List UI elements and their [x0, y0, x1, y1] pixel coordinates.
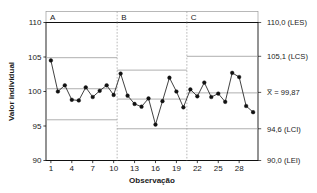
right-limit-label-lci: 94,6 (LCI)	[267, 125, 301, 134]
data-point	[230, 71, 234, 75]
data-point	[105, 83, 109, 87]
data-point	[133, 102, 137, 106]
x-tick-label: 13	[130, 164, 139, 173]
x-tick-label: 22	[193, 164, 202, 173]
x-tick-label: 25	[214, 164, 223, 173]
right-limit-label-lei: 90,0 (LEI)	[267, 156, 301, 165]
stage-label-b: B	[121, 13, 126, 22]
data-point	[216, 92, 220, 96]
y-tick-label: 90	[32, 156, 41, 165]
data-point	[56, 90, 60, 94]
y-tick-label: 110	[29, 18, 42, 27]
x-tick-label: 10	[109, 164, 118, 173]
data-point	[195, 94, 199, 98]
control-chart: ABC 9095100105110 Valor individual 14710…	[0, 0, 317, 193]
data-point	[77, 99, 81, 103]
x-tick-label: 1	[49, 164, 54, 173]
data-point	[223, 100, 227, 104]
x-tick-label: 28	[235, 164, 244, 173]
data-point	[237, 75, 241, 79]
data-point	[126, 94, 130, 98]
x-axis-title: Observação	[129, 176, 175, 185]
data-point	[161, 99, 165, 103]
data-point	[119, 72, 123, 76]
data-point	[98, 89, 102, 93]
data-point	[251, 110, 255, 114]
y-axis-title: Valor individual	[7, 62, 16, 121]
y-tick-label: 105	[28, 53, 42, 62]
data-point	[189, 88, 193, 92]
data-point	[140, 105, 144, 109]
right-limit-label-les: 110,0 (LES)	[267, 18, 307, 27]
chart-canvas: ABC 9095100105110 Valor individual 14710…	[0, 0, 317, 193]
x-tick-label: 4	[70, 164, 75, 173]
y-tick-label: 95	[32, 122, 41, 131]
right-limit-label-lcs: 105,1 (LCS)	[267, 52, 308, 61]
data-point	[91, 95, 95, 99]
data-point	[209, 95, 213, 99]
data-point	[154, 123, 158, 127]
data-point	[168, 76, 172, 80]
x-tick-label: 7	[90, 164, 95, 173]
data-point	[70, 98, 74, 102]
right-limit-label-xbar: X̅ = 99,87	[267, 88, 300, 97]
y-tick-label: 100	[28, 87, 42, 96]
data-point	[175, 90, 179, 94]
data-point	[63, 83, 67, 87]
data-point	[244, 104, 248, 108]
stage-label-c: C	[191, 13, 197, 22]
x-tick-label: 19	[172, 164, 181, 173]
data-point	[84, 86, 88, 90]
x-tick-label: 16	[151, 164, 160, 173]
data-point	[182, 106, 186, 110]
data-point	[147, 97, 151, 101]
data-point	[49, 59, 53, 63]
stage-label-a: A	[50, 13, 56, 22]
data-point	[202, 81, 206, 85]
data-point	[112, 93, 116, 97]
